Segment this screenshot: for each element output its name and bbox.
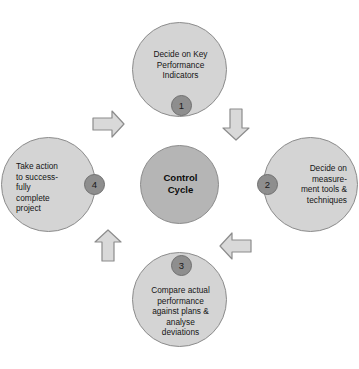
cycle-badge-1: 1 [171, 95, 192, 116]
cycle-badge-3: 3 [171, 255, 192, 276]
control-cycle-diagram: Decide on Key Performance Indicators 1 D… [0, 0, 359, 369]
cycle-node-1-label: Decide on Key Performance Indicators [133, 49, 228, 81]
cycle-badge-2: 2 [257, 174, 278, 195]
control-cycle-hub: Control Cycle [140, 145, 219, 224]
cycle-node-2-label: Decide on measure- ment tools & techniqu… [264, 163, 359, 205]
control-cycle-hub-label: Control Cycle [141, 172, 220, 196]
cycle-badge-4: 4 [84, 174, 105, 195]
cycle-node-4: Take action to success- fully complete p… [1, 137, 96, 232]
arrow-down-right-icon [216, 104, 256, 144]
arrow-up-left-icon [88, 226, 128, 266]
cycle-node-3-label: Compare actual performance against plans… [133, 285, 228, 338]
cycle-node-4-label: Take action to success- fully complete p… [2, 161, 97, 214]
arrow-up-right-icon [88, 104, 128, 144]
arrow-down-left-icon [216, 226, 256, 266]
